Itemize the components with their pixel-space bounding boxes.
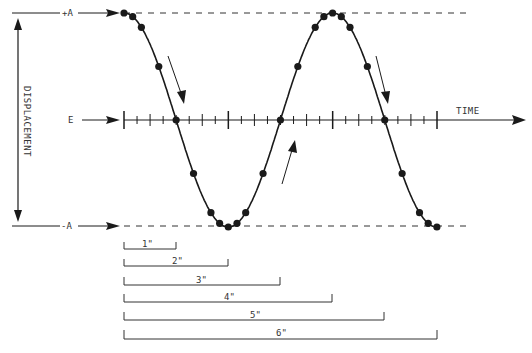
sample-point xyxy=(207,209,214,216)
sample-point xyxy=(225,223,232,230)
sample-point xyxy=(381,116,388,123)
bracket-label: 4" xyxy=(224,292,235,302)
time-label: TIME xyxy=(456,106,480,116)
displacement-label: DISPLACEMENT xyxy=(22,86,32,157)
sample-point xyxy=(216,220,223,227)
bracket-label: 1" xyxy=(142,239,153,249)
sample-point xyxy=(259,170,266,177)
arrow-up-right-icon xyxy=(288,140,297,153)
sample-point xyxy=(294,63,301,70)
sample-point xyxy=(120,9,127,16)
arrow-down-right-icon xyxy=(381,91,390,104)
sample-point xyxy=(329,9,336,16)
time-axis: E TIME xyxy=(68,106,526,129)
arrow-up-icon xyxy=(14,18,22,30)
sample-point xyxy=(320,13,327,20)
bracket-5: 5" xyxy=(124,310,384,320)
sample-point xyxy=(312,24,319,31)
arrow-down-right-icon xyxy=(177,90,186,104)
bracket-4: 4" xyxy=(124,292,332,302)
sample-point xyxy=(416,209,423,216)
scale-brackets: 1" 2" 3" 4" 5" 6" xyxy=(124,239,437,339)
arrow-right-icon xyxy=(106,116,120,124)
time-arrow-icon xyxy=(512,115,526,125)
equilibrium-label: E xyxy=(68,115,73,125)
sample-point xyxy=(155,63,162,70)
sample-point xyxy=(364,63,371,70)
sample-point xyxy=(433,223,440,230)
bracket-label: 2" xyxy=(172,256,183,266)
bracket-2: 2" xyxy=(124,256,228,266)
sample-point xyxy=(346,24,353,31)
bracket-1: 1" xyxy=(124,239,176,249)
sample-point xyxy=(233,220,240,227)
sample-point xyxy=(242,209,249,216)
sample-point xyxy=(425,220,432,227)
arrow-down-icon xyxy=(14,210,22,222)
bracket-label: 6" xyxy=(276,328,287,338)
bracket-label: 3" xyxy=(196,275,207,285)
minus-a-reference: -A xyxy=(12,221,470,231)
sample-point xyxy=(338,13,345,20)
bracket-6: 6" xyxy=(124,328,437,339)
sample-point xyxy=(129,13,136,20)
sample-point xyxy=(399,170,406,177)
displacement-axis: DISPLACEMENT xyxy=(14,18,32,222)
wave-displacement-diagram: DISPLACEMENT +A -A E TIME xyxy=(0,0,532,353)
sample-point xyxy=(173,116,180,123)
sample-point xyxy=(190,170,197,177)
plus-a-reference: +A xyxy=(12,8,470,18)
arrow-right-icon xyxy=(106,222,120,230)
arrow-right-icon xyxy=(106,9,120,17)
minus-a-label: -A xyxy=(61,221,72,231)
bracket-label: 5" xyxy=(250,310,261,320)
sample-point xyxy=(277,116,284,123)
plus-a-label: +A xyxy=(62,8,73,18)
bracket-3: 3" xyxy=(124,275,280,285)
sample-point xyxy=(138,24,145,31)
